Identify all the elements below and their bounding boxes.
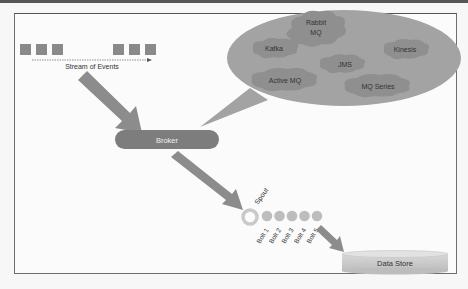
cloud-label: Rabbit (306, 19, 326, 26)
bolt-node (299, 211, 310, 222)
arrow-stream-to-broker (78, 71, 142, 133)
event-square (113, 44, 124, 55)
event-square (129, 44, 140, 55)
event-square (36, 44, 47, 55)
bolt-chain: Bolt 1 Bolt 2 Bolt 3 Bolt 4 Bolt 5 (255, 211, 322, 245)
broker-label: Broker (156, 136, 179, 145)
spout-ring (243, 210, 257, 224)
data-store-label: Data Store (377, 259, 413, 268)
bolt-node (287, 211, 298, 222)
callout-tail (200, 88, 268, 127)
stream-label: Stream of Events (65, 63, 119, 70)
broker-node: Broker (115, 130, 219, 149)
cloud-label: Kinesis (394, 46, 417, 53)
cloud-label: Kafka (265, 45, 283, 52)
storm-architecture-diagram: Stream of Events Rabbit MQ Kafka Kinesis… (0, 0, 468, 289)
cloud-label: MQ Series (361, 83, 395, 91)
cloud-label: MQ (310, 29, 322, 37)
bolt-node (312, 211, 323, 222)
bolt-node (274, 211, 285, 222)
bolt-node (262, 211, 273, 222)
data-store-node: Data Store (342, 251, 448, 275)
arrow-bolts-to-datastore (316, 225, 344, 252)
event-stream: Stream of Events (20, 44, 156, 70)
arrow-broker-to-spout (171, 151, 243, 210)
event-square (145, 44, 156, 55)
event-square (20, 44, 31, 55)
spout-label: Spout (253, 187, 270, 207)
cloud-label: JMS (338, 61, 352, 68)
event-square (52, 44, 63, 55)
stream-arrowhead (147, 58, 152, 62)
cloud-label: Active MQ (269, 77, 302, 85)
